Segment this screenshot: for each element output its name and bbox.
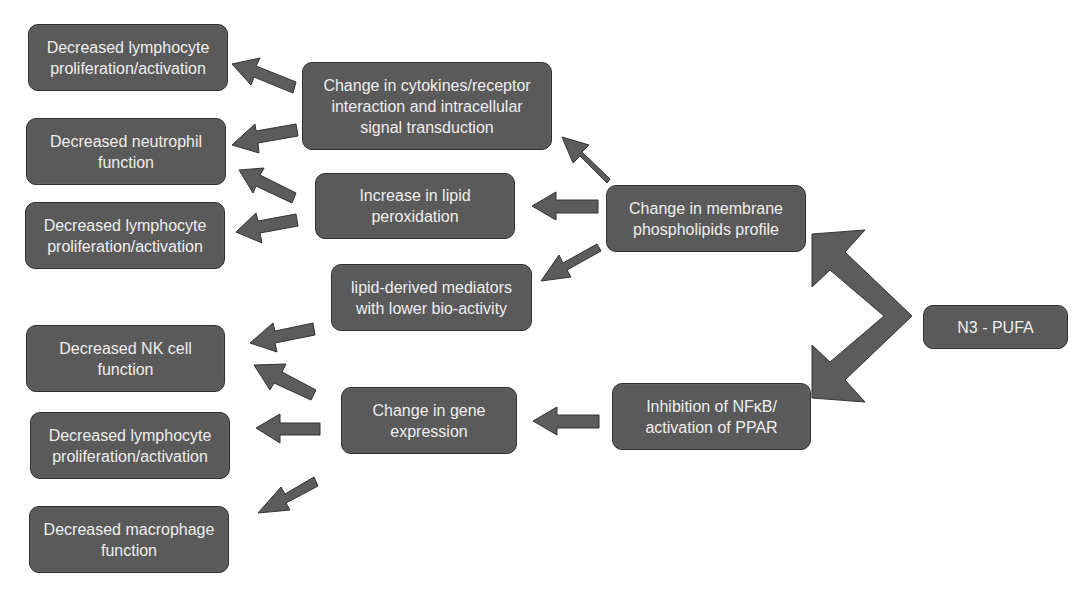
arrow-cytokines-to-lymph1-icon: [232, 58, 296, 93]
outcome-nk-cell: Decreased NK cell function: [26, 325, 225, 392]
outcome-macrophage: Decreased macrophage function: [29, 506, 229, 573]
outcome-label: Decreased lymphocyte proliferation/activ…: [37, 425, 223, 467]
source-label: N3 - PUFA: [957, 317, 1033, 338]
outcome-neutrophil: Decreased neutrophil function: [26, 118, 226, 185]
arrow-mediators-to-nk-icon: [250, 323, 315, 352]
outcome-label: Decreased NK cell function: [33, 338, 218, 380]
outcome-label: Decreased lymphocyte proliferation/activ…: [32, 215, 218, 257]
outcome-label: Decreased neutrophil function: [33, 131, 219, 173]
intermediate-label: lipid-derived mediators with lower bio-a…: [338, 277, 525, 319]
arrow-cytokines-to-neutrophil-icon: [232, 124, 298, 153]
arrow-nfkb-to-gene-icon: [533, 407, 599, 435]
arrow-gene-to-macrophage-icon: [258, 477, 318, 513]
intermediate-label: Change in cytokines/receptor interaction…: [309, 75, 545, 138]
mechanism-label: Change in membrane phospholipids profile: [613, 198, 799, 240]
arrow-peroxidation-to-neutrophil-icon: [239, 168, 296, 203]
mechanism-membrane-phospholipids: Change in membrane phospholipids profile: [606, 185, 806, 252]
outcome-lymphocyte-2: Decreased lymphocyte proliferation/activ…: [25, 202, 225, 269]
outcome-label: Decreased macrophage function: [36, 519, 222, 561]
intermediate-gene-expression: Change in gene expression: [341, 387, 517, 454]
mechanism-nfkb-ppar: Inhibition of NFκB/ activation of PPAR: [612, 383, 811, 450]
arrow-gene-to-lymph3-icon: [256, 414, 320, 443]
intermediate-lipid-peroxidation: Increase in lipid peroxidation: [315, 173, 515, 239]
arrow-peroxidation-to-lymph2-icon: [236, 213, 298, 243]
arrow-membrane-to-mediators-icon: [541, 244, 601, 281]
intermediate-label: Increase in lipid peroxidation: [322, 185, 508, 227]
intermediate-cytokines: Change in cytokines/receptor interaction…: [302, 62, 552, 150]
intermediate-label: Change in gene expression: [348, 400, 510, 442]
mechanism-label: Inhibition of NFκB/ activation of PPAR: [619, 396, 804, 438]
chevron-arrow-icon: [812, 230, 912, 402]
arrow-membrane-to-peroxidation-icon: [532, 192, 598, 220]
source-n3-pufa: N3 - PUFA: [923, 305, 1068, 349]
outcome-lymphocyte-3: Decreased lymphocyte proliferation/activ…: [30, 412, 230, 479]
arrow-gene-to-nk-icon: [254, 364, 316, 400]
outcome-label: Decreased lymphocyte proliferation/activ…: [35, 37, 221, 79]
arrow-membrane-to-cytokines-icon: [562, 137, 610, 183]
outcome-lymphocyte-1: Decreased lymphocyte proliferation/activ…: [28, 24, 228, 91]
intermediate-lipid-mediators: lipid-derived mediators with lower bio-a…: [331, 264, 532, 331]
